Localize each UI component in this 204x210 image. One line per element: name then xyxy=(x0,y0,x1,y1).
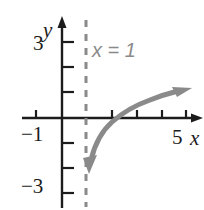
y-tick-label-3: 3 xyxy=(33,33,44,54)
y-tick-label-minus-1: −1 xyxy=(21,124,43,145)
arrow-right-icon xyxy=(191,114,203,123)
arrow-up-icon xyxy=(58,16,67,28)
y-tick-label-minus-3: −3 xyxy=(21,176,43,197)
x-axis-label: x xyxy=(190,128,199,149)
asymptote-label: x = 1 xyxy=(92,40,136,60)
curve-arrow-upright-icon xyxy=(172,87,192,97)
logarithmic-curve xyxy=(91,91,178,160)
y-axis-label: y xyxy=(43,20,52,41)
x-tick-label-5: 5 xyxy=(172,127,183,148)
graph-figure: y 3 −1 −3 5 x x = 1 xyxy=(0,0,204,210)
